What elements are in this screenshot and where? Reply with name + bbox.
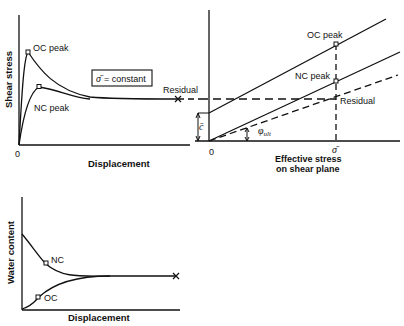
sigma-constant-text: = constant xyxy=(104,74,146,84)
oc-curve xyxy=(19,52,178,145)
c-bar-label: c̄ xyxy=(199,121,204,132)
oc-peak-marker xyxy=(26,50,30,54)
residual-label-left: Residual xyxy=(163,85,198,95)
nc-water-label: NC xyxy=(51,255,64,265)
shear-diagram: Shear stress 0 Displacement OC peak NC p… xyxy=(0,0,404,326)
origin-left: 0 xyxy=(15,149,20,159)
ylabel-shear-stress: Shear stress xyxy=(3,51,14,108)
nc-curve xyxy=(19,87,90,145)
oc-water-label: OC xyxy=(44,293,58,303)
xlabel-displacement-bottom: Displacement xyxy=(68,312,131,323)
origin-right: 0 xyxy=(209,147,214,157)
oc-water-marker xyxy=(36,295,40,299)
oc-peak-label: OC peak xyxy=(33,43,69,53)
oc-peak-marker-right xyxy=(334,42,338,46)
xlabel-effective-stress-1: Effective stress xyxy=(275,154,342,164)
ylabel-water-content: Water content xyxy=(5,220,16,284)
phi-label: φult xyxy=(258,125,272,138)
nc-water-curve xyxy=(22,234,175,276)
nc-water-marker xyxy=(44,261,48,265)
nc-peak-marker xyxy=(37,85,41,89)
xlabel-displacement-top: Displacement xyxy=(88,158,151,169)
nc-peak-label: NC peak xyxy=(34,103,70,113)
oc-peak-label-right: OC peak xyxy=(307,30,343,40)
residual-label-right: Residual xyxy=(340,96,375,106)
nc-peak-marker-right xyxy=(334,79,338,83)
residual-envelope xyxy=(209,75,398,141)
oc-water-curve xyxy=(22,276,110,309)
xlabel-effective-stress-2: on shear plane xyxy=(276,164,340,174)
sigma-symbol: σ̄ xyxy=(96,73,104,84)
nc-peak-label-right: NC peak xyxy=(295,71,331,81)
